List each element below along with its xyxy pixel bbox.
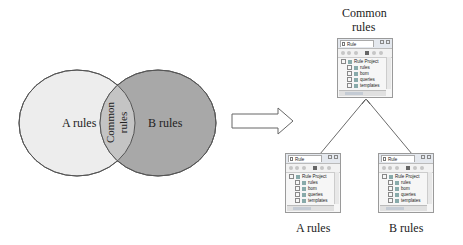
vertical-scrollbar[interactable] [386, 57, 391, 89]
hierarchy-icon[interactable] [313, 166, 317, 170]
explorer-icon [342, 42, 345, 46]
folder-icon [302, 193, 306, 197]
tree-item[interactable]: templates [295, 198, 328, 204]
folder-icon [302, 181, 306, 185]
panel-title-bar: Rule Explorer [338, 39, 392, 49]
folder-icon [354, 78, 358, 82]
a-rule-explorer-panel: Rule Explorer Rule Project rules bom que… [285, 153, 341, 213]
folder-icon [354, 84, 358, 88]
panel-toolbar [379, 164, 433, 173]
rule-explorer-tab[interactable]: Rule Explorer [288, 155, 322, 162]
panel-toolbar [286, 164, 340, 173]
arrowhead-icon [362, 99, 370, 104]
forward-icon[interactable] [295, 166, 299, 170]
project-icon [296, 175, 300, 179]
panel-toolbar [338, 49, 392, 58]
link-icon[interactable] [327, 166, 331, 170]
a-rules-label: A rules [62, 116, 96, 131]
transform-arrow-icon [232, 108, 293, 134]
arrow-a-to-common [320, 100, 365, 154]
panel-title-bar: Rule Explorer [379, 154, 433, 164]
back-icon[interactable] [289, 166, 293, 170]
back-icon[interactable] [341, 51, 345, 55]
folder-icon [395, 193, 399, 197]
a-rules-caption: A rules [296, 221, 330, 236]
folder-icon [302, 199, 306, 203]
forward-icon[interactable] [388, 166, 392, 170]
arrow-b-to-common [367, 100, 412, 154]
project-icon [348, 60, 352, 64]
project-tree: Rule Project rules bom queries templates [379, 173, 433, 205]
folder-icon [354, 66, 358, 70]
forward-icon[interactable] [347, 51, 351, 55]
link-icon[interactable] [379, 51, 383, 55]
explorer-icon [383, 157, 386, 161]
panel-title-bar: Rule Explorer [286, 154, 340, 164]
maximize-icon[interactable] [427, 155, 431, 159]
collapse-icon[interactable] [320, 166, 324, 170]
folder-icon [395, 187, 399, 191]
tree-item[interactable]: templates [388, 198, 421, 204]
project-tree: Rule Project rules bom queries templates [286, 173, 340, 205]
up-icon[interactable] [302, 166, 306, 170]
project-tree: Rule Project rules bom queries templates [338, 58, 392, 90]
maximize-icon[interactable] [334, 155, 338, 159]
b-rule-explorer-panel: Rule Explorer Rule Project rules bom que… [378, 153, 434, 213]
project-icon [389, 175, 393, 179]
minimize-icon[interactable] [328, 155, 332, 159]
horizontal-scrollbar[interactable] [339, 90, 386, 96]
b-rules-caption: B rules [389, 221, 423, 236]
minimize-icon[interactable] [421, 155, 425, 159]
rule-explorer-tab[interactable]: Rule Explorer [381, 155, 415, 162]
common-rules-vertical-label: Common rules [96, 100, 140, 146]
explorer-icon [290, 157, 293, 161]
collapse-icon[interactable] [372, 51, 376, 55]
common-caption-line2: rules [352, 20, 375, 35]
rules-word: rules [118, 100, 129, 146]
folder-icon [395, 181, 399, 185]
back-icon[interactable] [382, 166, 386, 170]
hierarchy-icon[interactable] [406, 166, 410, 170]
collapse-icon[interactable] [413, 166, 417, 170]
tree-item[interactable]: templates [347, 83, 380, 89]
up-icon[interactable] [395, 166, 399, 170]
minimize-icon[interactable] [380, 40, 384, 44]
folder-icon [354, 72, 358, 76]
common-word: Common [105, 100, 116, 146]
vertical-scrollbar[interactable] [427, 172, 432, 204]
common-caption-line1: Common [342, 6, 387, 21]
link-icon[interactable] [420, 166, 424, 170]
up-icon[interactable] [354, 51, 358, 55]
maximize-icon[interactable] [386, 40, 390, 44]
horizontal-scrollbar[interactable] [380, 205, 427, 211]
b-rules-label: B rules [148, 116, 182, 131]
common-rule-explorer-panel: Rule Explorer Rule Project rules bom que… [337, 38, 393, 98]
hierarchy-icon[interactable] [365, 51, 369, 55]
folder-icon [302, 187, 306, 191]
horizontal-scrollbar[interactable] [287, 205, 334, 211]
rule-explorer-tab[interactable]: Rule Explorer [340, 40, 374, 47]
folder-icon [395, 199, 399, 203]
vertical-scrollbar[interactable] [334, 172, 339, 204]
